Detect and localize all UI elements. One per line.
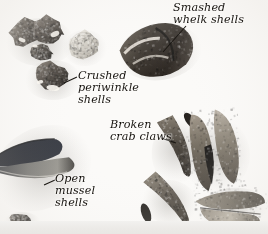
label-smashed-whelk-shells: Smashed whelk shells — [173, 2, 244, 26]
label-broken-crab-claws: Broken crab claws — [110, 119, 172, 143]
shell-remains-figure: Crushed periwinkle shells Smashed whelk … — [0, 0, 268, 234]
label-crushed-periwinkle-shells: Crushed periwinkle shells — [78, 70, 139, 107]
label-open-mussel-shells: Open mussel shells — [55, 173, 95, 210]
photo-bottom-band — [0, 221, 268, 234]
specimen-photograph — [0, 0, 268, 234]
